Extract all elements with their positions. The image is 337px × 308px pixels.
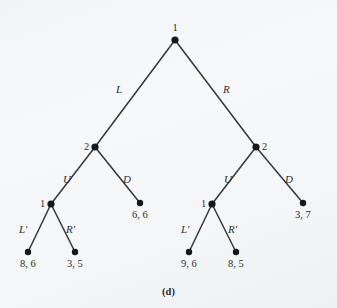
payoff-label-t1: 8, 6 <box>20 259 36 270</box>
tree-edge-root-n2R <box>175 40 256 147</box>
game-tree-svg <box>0 0 337 308</box>
edge-label-U: U <box>63 174 71 185</box>
payoff-label-t4: 9, 6 <box>181 259 197 270</box>
terminal-node-t1 <box>25 249 31 255</box>
tree-edge-root-n2L <box>95 40 175 147</box>
player-label-root: 1 <box>173 23 178 34</box>
player-label-n2R: 2 <box>262 142 267 153</box>
edge-label-Rprime: R' <box>228 224 237 235</box>
edge-label-D: D <box>285 174 293 185</box>
terminal-node-t2 <box>72 249 78 255</box>
decision-node-n2L <box>91 143 98 150</box>
edge-label-Rprime: R' <box>66 224 75 235</box>
tree-edge-n2L-t3 <box>95 147 140 203</box>
player-label-n1L: 1 <box>40 199 45 210</box>
decision-node-n1L <box>47 200 54 207</box>
tree-edge-n1R-t4 <box>189 204 212 252</box>
payoff-label-t6: 3, 7 <box>295 210 311 221</box>
game-tree-figure: LRUDUDL'R'L'R'122118, 63, 56, 69, 68, 53… <box>0 0 337 308</box>
tree-edge-n1L-t1 <box>28 204 51 252</box>
terminal-node-t4 <box>186 249 192 255</box>
payoff-label-t2: 3, 5 <box>67 259 83 270</box>
edge-label-L: L <box>116 84 122 95</box>
tree-edge-n2R-t6 <box>256 147 303 203</box>
payoff-label-t3: 6, 6 <box>132 210 148 221</box>
figure-caption: (d) <box>0 286 337 297</box>
terminal-node-t6 <box>300 200 306 206</box>
edge-label-U: U <box>224 174 232 185</box>
player-label-n1R: 1 <box>201 199 206 210</box>
edge-label-R: R <box>223 84 230 95</box>
tree-edge-n2R-n1R <box>212 147 256 204</box>
player-label-n2L: 2 <box>84 142 89 153</box>
tree-edge-n2L-n1L <box>51 147 95 204</box>
decision-node-n1R <box>208 200 215 207</box>
edge-label-Lprime: L' <box>19 224 27 235</box>
edge-label-Lprime: L' <box>181 224 189 235</box>
terminal-node-t5 <box>233 249 239 255</box>
decision-node-n2R <box>252 143 259 150</box>
edge-label-D: D <box>123 174 131 185</box>
decision-node-root <box>171 36 178 43</box>
terminal-node-t3 <box>137 200 143 206</box>
payoff-label-t5: 8, 5 <box>228 259 244 270</box>
